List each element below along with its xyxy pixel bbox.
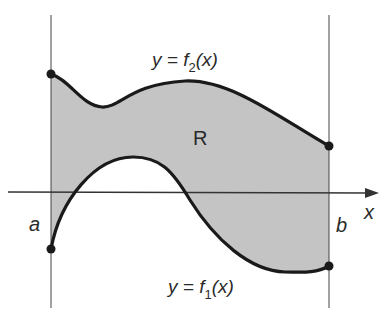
endpoint-dot-f1-a [47,245,56,254]
right-bound-label-b: b [336,214,347,236]
region-label: R [193,127,207,149]
region-between-curves-diagram: R y = f2(x) y = f1(x) x a b [0,0,387,318]
x-axis [8,192,372,193]
upper-curve-label: y = f2(x) [150,49,218,75]
x-axis-label: x [363,201,375,223]
lower-curve-label: y = f1(x) [166,276,234,302]
x-axis-arrow-icon [365,188,379,198]
endpoint-dot-f2-b [325,142,334,151]
endpoint-dot-f2-a [47,70,56,79]
left-bound-label-a: a [29,213,40,235]
endpoint-dot-f1-b [325,262,334,271]
